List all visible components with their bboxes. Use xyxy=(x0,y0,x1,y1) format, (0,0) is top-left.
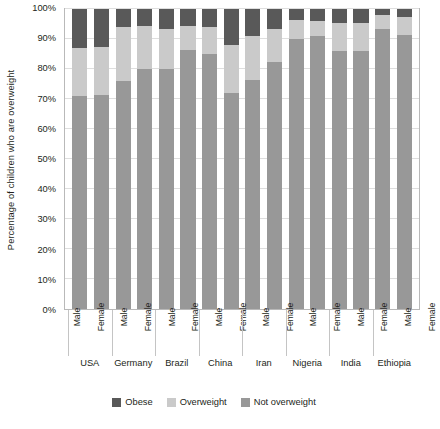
stacked-bar[interactable] xyxy=(245,9,260,309)
x-axis-group-label: Brazil xyxy=(155,358,199,376)
x-axis-bar-label-text: Female xyxy=(427,303,437,332)
bar-segment-overweight[interactable] xyxy=(72,48,87,96)
x-axis-bar-label: Male xyxy=(115,310,134,356)
bar-segment-overweight[interactable] xyxy=(245,36,260,80)
bar-segment-obese[interactable] xyxy=(159,9,174,29)
x-axis-group-label: India xyxy=(329,358,373,376)
stacked-bar[interactable] xyxy=(332,9,347,309)
bar-segment-obese[interactable] xyxy=(116,9,131,27)
bar-segment-not-overweight[interactable] xyxy=(137,69,152,309)
legend-item[interactable]: Obese xyxy=(112,397,152,407)
bar-segment-obese[interactable] xyxy=(397,9,412,17)
bar-segment-obese[interactable] xyxy=(332,9,347,23)
bar-segment-not-overweight[interactable] xyxy=(245,80,260,310)
x-axis-bar-label-text: Male xyxy=(356,308,366,327)
bar-segment-not-overweight[interactable] xyxy=(180,50,195,310)
stacked-bar[interactable] xyxy=(397,9,412,309)
x-axis-bar-label: Female xyxy=(181,310,210,356)
bar-segment-overweight[interactable] xyxy=(202,27,217,54)
bar-segment-not-overweight[interactable] xyxy=(224,93,239,309)
bar-segment-not-overweight[interactable] xyxy=(159,69,174,309)
x-axis-group-label: Iran xyxy=(242,358,286,376)
y-axis-tick-label: 70% xyxy=(37,94,56,104)
x-axis-bar-label: Female xyxy=(370,310,399,356)
stacked-bar[interactable] xyxy=(180,9,195,309)
bar-segment-not-overweight[interactable] xyxy=(202,54,217,309)
stacked-bar[interactable] xyxy=(375,9,390,309)
bar-segment-not-overweight[interactable] xyxy=(332,51,347,309)
bar-segment-obese[interactable] xyxy=(180,9,195,26)
bar-segment-obese[interactable] xyxy=(353,9,368,23)
x-axis-bar-label: Male xyxy=(257,310,276,356)
bar-slot xyxy=(242,9,264,309)
bar-segment-overweight[interactable] xyxy=(180,26,195,50)
stacked-bar[interactable] xyxy=(289,9,304,309)
bar-segment-obese[interactable] xyxy=(224,9,239,45)
bar-segment-overweight[interactable] xyxy=(332,23,347,52)
x-axis-group-label: Germany xyxy=(112,358,156,376)
legend-swatch-icon xyxy=(112,398,121,407)
x-axis-bar-label-text: Male xyxy=(262,308,272,327)
bar-segment-overweight[interactable] xyxy=(310,21,325,36)
bar-segment-obese[interactable] xyxy=(289,9,304,20)
y-axis-tick-label: 90% xyxy=(37,33,56,43)
stacked-bar[interactable] xyxy=(72,9,87,309)
x-axis-bar-label-text: Female xyxy=(380,303,390,332)
bar-segment-overweight[interactable] xyxy=(397,17,412,35)
legend-item[interactable]: Overweight xyxy=(167,397,227,407)
bar-segment-overweight[interactable] xyxy=(375,15,390,29)
bar-segment-obese[interactable] xyxy=(137,9,152,26)
y-axis-tick-label: 80% xyxy=(37,63,56,73)
bar-slot xyxy=(307,9,329,309)
x-axis-bar-label: Female xyxy=(276,310,305,356)
plot-area xyxy=(64,8,420,310)
stacked-bar[interactable] xyxy=(310,9,325,309)
x-axis-group-labels: USAGermanyBrazilChinaIranNigeriaIndiaEth… xyxy=(64,358,420,376)
y-axis-tick-label: 100% xyxy=(32,3,56,13)
stacked-bar[interactable] xyxy=(353,9,368,309)
bar-slot xyxy=(220,9,242,309)
bar-segment-overweight[interactable] xyxy=(159,29,174,70)
stacked-bar[interactable] xyxy=(116,9,131,309)
x-axis-group-label: USA xyxy=(68,358,112,376)
bar-segment-overweight[interactable] xyxy=(137,26,152,70)
bar-segment-overweight[interactable] xyxy=(353,23,368,52)
stacked-bar[interactable] xyxy=(267,9,282,309)
legend-item[interactable]: Not overweight xyxy=(241,397,316,407)
bar-slot xyxy=(329,9,351,309)
bar-segment-not-overweight[interactable] xyxy=(310,36,325,309)
x-axis-bar-label-text: Male xyxy=(167,308,177,327)
bar-segment-not-overweight[interactable] xyxy=(72,96,87,309)
stacked-bar[interactable] xyxy=(159,9,174,309)
stacked-bar[interactable] xyxy=(94,9,109,309)
bar-segment-not-overweight[interactable] xyxy=(267,62,282,310)
bar-segment-not-overweight[interactable] xyxy=(353,51,368,309)
bar-segment-overweight[interactable] xyxy=(116,27,131,81)
bar-segment-overweight[interactable] xyxy=(224,45,239,93)
bar-segment-obese[interactable] xyxy=(94,9,109,47)
bar-segment-obese[interactable] xyxy=(310,9,325,21)
bar-segment-overweight[interactable] xyxy=(289,20,304,40)
bar-segment-overweight[interactable] xyxy=(94,47,109,95)
bar-slot xyxy=(177,9,199,309)
x-axis-group-label: Ethiopia xyxy=(373,358,417,376)
bar-segment-obese[interactable] xyxy=(245,9,260,36)
bar-slot xyxy=(156,9,178,309)
legend-label: Overweight xyxy=(180,397,227,407)
bar-segment-overweight[interactable] xyxy=(267,29,282,62)
bar-segment-obese[interactable] xyxy=(267,9,282,29)
stacked-bar[interactable] xyxy=(202,9,217,309)
stacked-bar[interactable] xyxy=(137,9,152,309)
bar-segment-obese[interactable] xyxy=(72,9,87,48)
bar-segment-not-overweight[interactable] xyxy=(375,29,390,310)
stacked-bar[interactable] xyxy=(224,9,239,309)
bar-segment-obese[interactable] xyxy=(202,9,217,27)
bar-segment-not-overweight[interactable] xyxy=(94,95,109,310)
x-axis-bar-label: Male xyxy=(352,310,371,356)
bar-segment-not-overweight[interactable] xyxy=(289,39,304,309)
x-axis-bar-label: Male xyxy=(210,310,229,356)
plot-wrapper: 100%90%80%70%60%50%40%30%20%10%0% xyxy=(22,8,420,318)
bar-segment-not-overweight[interactable] xyxy=(397,35,412,310)
bar-segment-not-overweight[interactable] xyxy=(116,81,131,309)
